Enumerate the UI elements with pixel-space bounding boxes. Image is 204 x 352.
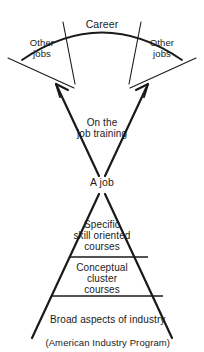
pyramid-tier-bottom-line2: (American Industry Program) <box>45 337 170 348</box>
fan-edge-right-outer <box>130 58 196 88</box>
pyramid-tier-middle-label: Conceptual cluster courses <box>0 262 204 296</box>
pyramid-tier-bottom-label: Broad aspects of industry (American Indu… <box>0 303 204 352</box>
a-job-label: A job <box>0 177 204 189</box>
on-the-job-training-label: On the job training <box>0 117 204 139</box>
career-label: Career <box>0 19 204 31</box>
other-jobs-left-label: Other jobs <box>14 38 70 59</box>
fan-edge-left-outer <box>8 58 74 88</box>
other-jobs-right-label: Other jobs <box>134 38 190 59</box>
pyramid-tier-top-label: Specific skill oriented courses <box>0 219 204 253</box>
pyramid-tier-bottom-line1: Broad aspects of industry <box>50 314 165 325</box>
